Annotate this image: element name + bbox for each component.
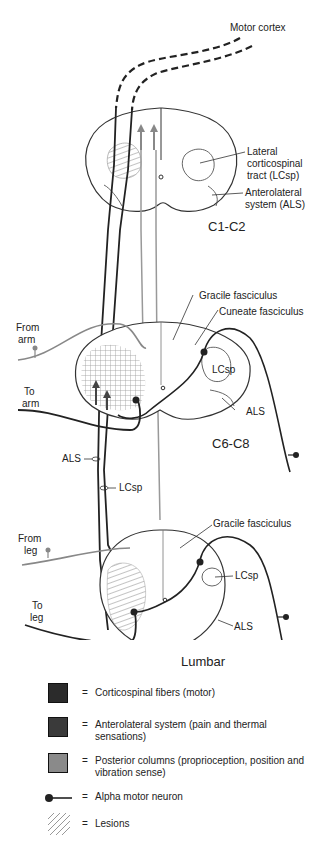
label-to-leg-2: leg	[30, 612, 43, 624]
spinal-cord-diagram	[0, 0, 322, 640]
label-motor-cortex: Motor cortex	[230, 22, 286, 34]
label-als-c6c8: ALS	[246, 406, 265, 418]
label-als-lumbar: ALS	[234, 621, 253, 633]
label-from-leg-2: leg	[24, 545, 37, 557]
label-als-line2: system (ALS)	[245, 199, 305, 211]
posterior-columns-swatch-icon	[48, 753, 68, 773]
motor-cortex-tracts	[116, 38, 252, 110]
corticospinal-swatch-icon	[48, 683, 68, 703]
label-lcsp-line2: corticospinal	[247, 158, 303, 170]
segment-c1c2: C1-C2	[208, 219, 246, 234]
label-als-line1: Anterolateral	[245, 187, 302, 199]
label-from-leg-1: From	[18, 533, 41, 545]
label-lcsp-line1: Lateral	[247, 146, 278, 158]
label-lcsp-tract: LCsp	[119, 482, 142, 494]
label-from-arm-2: arm	[18, 334, 35, 346]
lesion-hatch-icon	[48, 813, 70, 835]
segment-c6c8: C6-C8	[212, 436, 250, 451]
label-to-arm-2: arm	[22, 398, 39, 410]
label-lcsp-c6c8: LCsp	[212, 364, 235, 376]
label-from-arm-1: From	[16, 322, 39, 334]
label-gracile-fasciculus-lumbar: Gracile fasciculus	[213, 518, 291, 530]
cross-section-c1c2	[86, 108, 245, 211]
anterolateral-swatch-icon	[48, 717, 68, 737]
label-to-leg-1: To	[32, 600, 43, 612]
segment-lumbar: Lumbar	[181, 654, 225, 669]
label-lcsp-line3: tract (LCsp)	[247, 170, 299, 182]
alpha-motor-neuron-icon	[44, 793, 74, 803]
label-to-arm-1: To	[24, 386, 35, 398]
label-gracile-fasciculus: Gracile fasciculus	[199, 290, 277, 302]
label-als-tract: ALS	[62, 453, 81, 465]
label-cuneate-fasciculus: Cuneate fasciculus	[219, 306, 304, 318]
label-lcsp-lumbar: LCsp	[235, 570, 258, 582]
